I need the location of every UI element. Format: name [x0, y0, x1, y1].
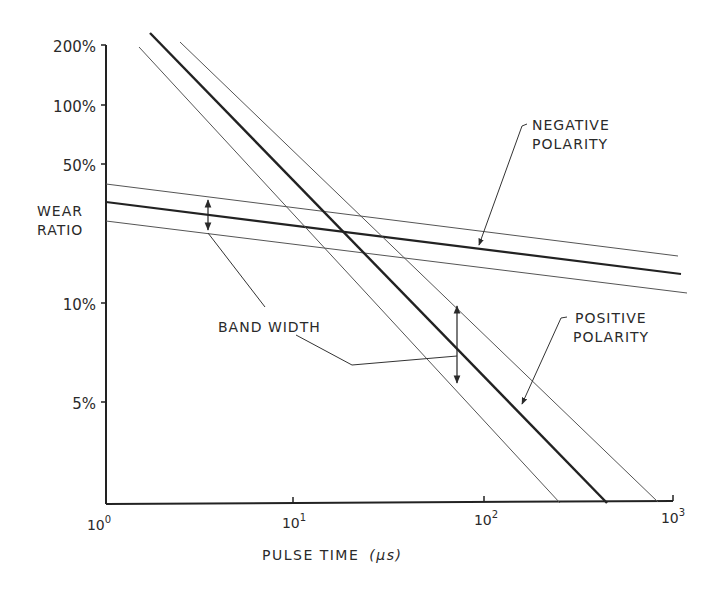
negative-polarity-annotation: NEGATIVE POLARITY	[479, 117, 610, 245]
y-tick-5: 5%	[72, 395, 96, 413]
y-tick-100: 100%	[53, 98, 96, 116]
x-axis-title: PULSE TIME(µs)	[262, 547, 402, 563]
positive-band-lower	[139, 47, 560, 503]
svg-text:100: 100	[87, 514, 111, 533]
band-width-leader-right	[296, 335, 457, 365]
axes	[101, 45, 673, 504]
y-axis-title-line1: WEAR	[37, 203, 83, 219]
negative-polarity-line	[106, 202, 681, 274]
band-width-leader-left	[208, 233, 265, 307]
positive-polarity-leader	[522, 317, 567, 404]
band-width-label: BAND WIDTH	[218, 319, 321, 335]
y-tick-50: 50%	[63, 157, 96, 175]
negative-polarity-band	[106, 184, 687, 293]
positive-polarity-line	[150, 33, 607, 503]
positive-polarity-band	[139, 33, 658, 503]
x-tick-labels: 100 101 102 103	[87, 507, 685, 533]
negative-polarity-leader	[479, 124, 527, 245]
svg-text:101: 101	[282, 512, 306, 531]
negative-band-lower	[106, 221, 687, 293]
x-axis	[106, 501, 673, 504]
band-width-arrows	[208, 200, 457, 383]
svg-text:102: 102	[474, 509, 498, 528]
positive-band-upper	[180, 42, 658, 502]
y-axis-title-line2: RATIO	[37, 222, 83, 238]
negative-band-upper	[106, 184, 678, 256]
svg-text:103: 103	[661, 507, 685, 526]
y-tick-10: 10%	[63, 296, 96, 314]
positive-polarity-label-1: POSITIVE	[575, 310, 647, 326]
negative-polarity-label-1: NEGATIVE	[532, 117, 610, 133]
wear-ratio-chart: 200% 100% 50% 10% 5% WEAR RATIO 100 101 …	[0, 0, 722, 603]
y-tick-200: 200%	[53, 38, 96, 56]
positive-polarity-label-2: POLARITY	[573, 329, 649, 345]
negative-polarity-label-2: POLARITY	[532, 136, 608, 152]
